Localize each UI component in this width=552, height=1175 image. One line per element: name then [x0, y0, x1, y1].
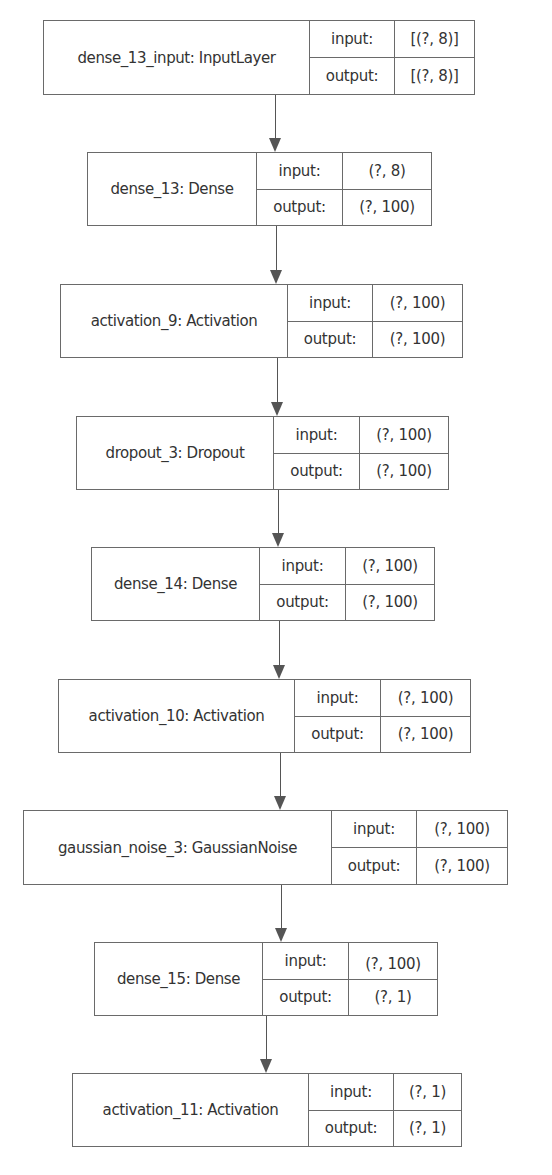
output-label: output: [263, 980, 349, 1016]
output-label: output: [260, 585, 346, 621]
input-label: input: [332, 811, 417, 847]
output-shape: (?, 100) [373, 322, 462, 358]
edge-line [281, 885, 282, 930]
edge-line [275, 95, 276, 140]
node-dense-13-input: dense_13_input: InputLayer input:[(?, 8)… [43, 20, 475, 95]
node-dropout-3: dropout_3: Dropout input:(?, 100) output… [76, 416, 449, 490]
edge-line [278, 490, 279, 535]
output-shape: [(?, 8)] [395, 58, 474, 94]
input-label: input: [288, 285, 373, 321]
input-shape: (?, 100) [381, 680, 470, 716]
output-shape: (?, 100) [346, 585, 434, 621]
input-label: input: [295, 680, 381, 716]
input-shape: (?, 100) [346, 548, 434, 584]
node-name: dense_14: Dense [92, 548, 260, 620]
node-name: activation_10: Activation [59, 680, 295, 752]
node-activation-9: activation_9: Activation input:(?, 100) … [60, 284, 463, 358]
edge-line [280, 753, 281, 798]
node-name: gaussian_noise_3: GaussianNoise [24, 811, 332, 884]
arrowhead-icon [273, 665, 285, 679]
output-label: output: [295, 717, 381, 753]
output-shape: (?, 100) [360, 454, 448, 490]
arrowhead-icon [274, 796, 286, 810]
output-shape: (?, 100) [381, 717, 470, 753]
input-shape: (?, 1) [394, 1074, 461, 1110]
input-shape: (?, 100) [360, 417, 448, 453]
node-activation-10: activation_10: Activation input:(?, 100)… [58, 679, 471, 753]
input-label: input: [310, 21, 395, 57]
input-label: input: [309, 1074, 394, 1110]
input-shape: (?, 8) [343, 153, 431, 189]
output-label: output: [257, 190, 343, 226]
input-shape: [(?, 8)] [395, 21, 474, 57]
output-label: output: [309, 1111, 394, 1147]
input-shape: (?, 100) [349, 943, 437, 979]
input-label: input: [260, 548, 346, 584]
output-label: output: [274, 454, 360, 490]
input-shape: (?, 100) [417, 811, 507, 847]
input-shape: (?, 100) [373, 285, 462, 321]
arrowhead-icon [270, 270, 282, 284]
arrowhead-icon [271, 402, 283, 416]
node-name: dense_13: Dense [88, 153, 257, 225]
node-gaussian-noise-3: gaussian_noise_3: GaussianNoise input:(?… [23, 810, 508, 885]
node-dense-14: dense_14: Dense input:(?, 100) output:(?… [91, 547, 435, 621]
arrowhead-icon [269, 138, 281, 152]
arrowhead-icon [275, 928, 287, 942]
node-name: dense_15: Dense [95, 943, 263, 1015]
edge-line [266, 1016, 267, 1061]
output-label: output: [310, 58, 395, 94]
input-label: input: [257, 153, 343, 189]
node-name: dense_13_input: InputLayer [44, 21, 310, 94]
edge-line [277, 358, 278, 404]
output-shape: (?, 100) [343, 190, 431, 226]
node-name: dropout_3: Dropout [77, 417, 274, 489]
node-name: activation_11: Activation [73, 1074, 309, 1146]
node-dense-15: dense_15: Dense input:(?, 100) output:(?… [94, 942, 438, 1016]
output-shape: (?, 1) [349, 980, 437, 1016]
output-shape: (?, 100) [417, 848, 507, 884]
node-activation-11: activation_11: Activation input:(?, 1) o… [72, 1073, 462, 1147]
output-shape: (?, 1) [394, 1111, 461, 1147]
arrowhead-icon [272, 533, 284, 547]
output-label: output: [332, 848, 417, 884]
node-name: activation_9: Activation [61, 285, 288, 357]
node-dense-13: dense_13: Dense input:(?, 8) output:(?, … [87, 152, 432, 226]
input-label: input: [274, 417, 360, 453]
output-label: output: [288, 322, 373, 358]
arrowhead-icon [260, 1059, 272, 1073]
edge-line [276, 226, 277, 272]
input-label: input: [263, 943, 349, 979]
edge-line [279, 621, 280, 667]
